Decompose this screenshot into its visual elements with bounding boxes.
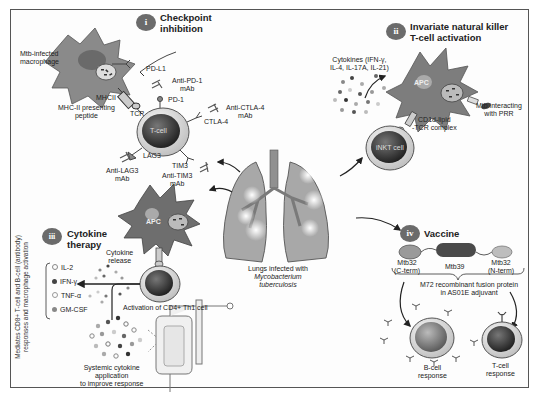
macrophage-label-line2: macrophage xyxy=(20,58,59,66)
anti-ctla4-label-line2: mAb xyxy=(226,112,265,120)
lag3-label: LAG3 xyxy=(143,152,161,160)
mtb-prr-label: Mtb interacting with PRR xyxy=(476,102,522,118)
lungs-label-line3: tuberculosis xyxy=(248,281,308,289)
anti-ctla4-label-line1: Anti-CTLA-4 xyxy=(226,104,265,112)
mhc-peptide-label-line1: MHC-II presenting xyxy=(58,104,115,112)
mtb32-cterm-label: Mtb32 (C-term) xyxy=(394,259,420,275)
cytokines-ii-label-line1: Cytokines (IFN-γ, xyxy=(330,56,389,64)
anti-tim3-label-line2: mAb xyxy=(162,180,192,188)
side-note-line1: Mediates CD8+ T-cell and B-cell (antibod… xyxy=(14,202,22,392)
anti-lag3-label-line1: Anti-LAG3 xyxy=(106,167,138,175)
systemic-cytokine-label-line3: to improve response xyxy=(80,380,143,388)
cytokines-ii-label-line2: IL-4, IL-17A, IL-21) xyxy=(330,64,389,72)
cytokine-release-label: Cytokine release xyxy=(106,249,133,265)
anti-tim3-label-line1: Anti-TIM3 xyxy=(162,172,192,180)
section-ii-title: Invariate natural killer T-cell activati… xyxy=(410,21,508,43)
iv-bag xyxy=(156,300,233,392)
t-cell-label: T-cell xyxy=(150,127,167,135)
section-i-title-line1: Checkpoint xyxy=(160,12,212,23)
mtb32-nterm-label-line1: Mtb32 xyxy=(488,259,514,267)
apc-iii-label: APC xyxy=(146,218,161,226)
b-cell-response-label: B-cell response xyxy=(418,364,447,380)
cytokine-item-tnf: TNF-α xyxy=(52,289,88,303)
anti-pd1-label-line1: Anti-PD-1 xyxy=(172,77,202,85)
cytokine-release-label-line1: Cytokine xyxy=(106,249,133,257)
section-i-title: Checkpoint inhibition xyxy=(160,12,212,34)
anti-tim3-label: Anti-TIM3 mAb xyxy=(162,172,192,188)
cd1d-tcr-label-line1: CD1d-lipid xyxy=(412,116,457,124)
mtb32-cterm-label-line2: (C-term) xyxy=(394,267,420,275)
section-i-badge: i xyxy=(136,14,156,31)
cytokine-item-ifn: IFN-γ xyxy=(52,275,88,289)
m72-label: M72 recombinant fusion protein in AS01E … xyxy=(420,281,518,297)
mtb32-cterm-label-line1: Mtb32 xyxy=(394,259,420,267)
t-cell-response-label-line2: response xyxy=(486,370,515,378)
anti-pd1-label: Anti-PD-1 mAb xyxy=(172,77,202,93)
mtb32-nterm-label: Mtb32 (N-term) xyxy=(488,259,514,275)
mtb39-label: Mtb39 xyxy=(445,263,464,271)
th1-activation-label: Activation of CD4+ Th1 cell xyxy=(123,304,208,312)
cytokine-list: IL-2 IFN-γ TNF-α GM-CSF xyxy=(52,261,88,317)
systemic-cytokine-label-line2: application xyxy=(80,372,143,380)
cytokine-item-label: IL-2 xyxy=(61,264,73,271)
tcr-label: TCR xyxy=(130,110,144,118)
b-cell xyxy=(410,318,454,358)
section-iii-title-line2: therapy xyxy=(67,239,107,250)
cd1d-tcr-label: CD1d-lipid -TCR complex xyxy=(412,116,457,132)
section-iv-badge: iv xyxy=(400,225,420,242)
cytokine-item-il2: IL-2 xyxy=(52,261,88,275)
mhc-peptide-label: MHC-II presenting peptide xyxy=(58,104,115,120)
apc-ii-label: APC xyxy=(414,79,429,87)
anti-lag3-label: Anti-LAG3 mAb xyxy=(106,167,138,183)
mediates-side-note: Mediates CD8+ T-cell and B-cell (antibod… xyxy=(14,202,30,392)
lungs-label: Lungs infected with Mycobacterium tuberc… xyxy=(248,265,308,289)
cytokine-item-label: IFN-γ xyxy=(60,278,77,285)
section-iii-title: Cytokine therapy xyxy=(67,228,107,250)
systemic-cytokine-label: Systemic cytokine application to improve… xyxy=(80,364,143,388)
section-iii-title-line1: Cytokine xyxy=(67,228,107,239)
mhc-tcr-iii xyxy=(155,248,163,267)
cytokine-list-bracket xyxy=(46,263,50,319)
cytokine-item-label: GM-CSF xyxy=(60,306,88,313)
section-ii-title-line2: T-cell activation xyxy=(410,32,508,43)
section-iii-badge: iii xyxy=(42,228,62,245)
anti-ctla4-label: Anti-CTLA-4 mAb xyxy=(226,104,265,120)
cytokine-item-label: TNF-α xyxy=(61,292,81,299)
mtb-prr-label-line2: with PRR xyxy=(476,110,522,118)
inkt-label: iNKT cell xyxy=(376,144,404,152)
mhcii-label: MHCII xyxy=(96,94,116,102)
anti-pd1-label-line2: mAb xyxy=(172,85,202,93)
cytokines-ii-label: Cytokines (IFN-γ, IL-4, IL-17A, IL-21) xyxy=(330,56,389,72)
macrophage-label: Mtb-infected macrophage xyxy=(20,50,59,66)
anti-lag3-label-line2: mAb xyxy=(106,175,138,183)
lungs xyxy=(223,150,328,262)
systemic-cytokine-dots xyxy=(90,316,142,358)
pd1-label: PD-1 xyxy=(168,96,184,104)
t-cell-response-label: T-cell response xyxy=(486,362,515,378)
lungs-label-line1: Lungs infected with xyxy=(248,265,308,273)
section-iv-title: Vaccine xyxy=(424,228,459,239)
ctla4-label: CTLA-4 xyxy=(204,118,228,126)
m72-label-line2: in AS01E adjuvant xyxy=(420,289,518,297)
cytokine-item-gmcsf: GM-CSF xyxy=(52,303,88,317)
diagram-artwork xyxy=(0,0,539,397)
b-cell-response-label-line1: B-cell xyxy=(418,364,447,372)
t-cell-response-label-line1: T-cell xyxy=(486,362,515,370)
mtb32-nterm-label-line2: (N-term) xyxy=(488,267,514,275)
cd1d-tcr-label-line2: -TCR complex xyxy=(412,124,457,132)
lungs-label-line2: Mycobacterium xyxy=(248,273,308,281)
section-ii-title-line1: Invariate natural killer xyxy=(410,21,508,32)
mtb-prr-label-line1: Mtb interacting xyxy=(476,102,522,110)
mhc-peptide-label-line2: peptide xyxy=(58,112,115,120)
section-i-title-line2: inhibition xyxy=(160,23,212,34)
th1-cell xyxy=(140,266,180,302)
cytokine-release-label-line2: release xyxy=(106,257,133,265)
side-note-line2: responses and macrophage activation xyxy=(22,202,30,392)
m72-label-line1: M72 recombinant fusion protein xyxy=(420,281,518,289)
tim3-label: TIM3 xyxy=(172,162,188,170)
macrophage-label-line1: Mtb-infected xyxy=(20,50,59,58)
b-cell-response-label-line2: response xyxy=(418,372,447,380)
systemic-cytokine-label-line1: Systemic cytokine xyxy=(80,364,143,372)
section-ii-badge: ii xyxy=(386,23,406,40)
pd-l1-label: PD-L1 xyxy=(146,65,166,73)
